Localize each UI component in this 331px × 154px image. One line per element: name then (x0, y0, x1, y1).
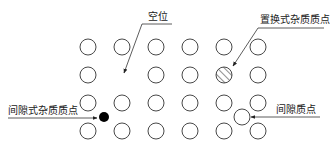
lattice-atom (250, 39, 266, 55)
lattice-atom (114, 95, 130, 111)
interstitial-impurity-label: 间隙式杂质质点 (8, 104, 78, 116)
lattice-atom (216, 95, 232, 111)
lattice-atom (148, 123, 164, 139)
lattice-atom (216, 39, 232, 55)
vacancy-label: 空位 (148, 10, 168, 22)
lattice-atom (182, 67, 198, 83)
lattice-atom (250, 67, 266, 83)
lattice-atom (80, 67, 96, 83)
lattice-atom (148, 39, 164, 55)
point-defect-diagram: 空位 置换式杂质质点 间隙式杂质质点 间隙质点 (0, 0, 331, 154)
lattice-atom (182, 39, 198, 55)
lattice-atom (80, 95, 96, 111)
lattice-atom (114, 39, 130, 55)
lattice-atom (114, 123, 130, 139)
substitutional-impurity-label: 置换式杂质质点 (260, 13, 330, 25)
lattice-atom (148, 95, 164, 111)
lattice-atom (216, 123, 232, 139)
self-interstitial-atom (234, 109, 250, 125)
lattice-atom (80, 39, 96, 55)
lattice-atom (182, 123, 198, 139)
lattice-atom (250, 95, 266, 111)
self-interstitial-label: 间隙质点 (276, 103, 316, 115)
lattice-atom (182, 95, 198, 111)
lattice-atom (148, 67, 164, 83)
lattice-atom (80, 123, 96, 139)
lattice-atom (250, 123, 266, 139)
substitutional-impurity-atom (216, 67, 232, 83)
interstitial-impurity-atom (99, 112, 109, 122)
